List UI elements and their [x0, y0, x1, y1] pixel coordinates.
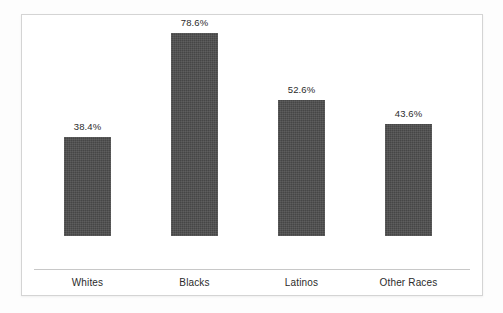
category-label-other-races: Other Races [355, 277, 462, 288]
bar-group-whites: 38.4% Whites [34, 15, 141, 295]
scanned-page-background: 38.4% Whites 78.6% Blacks 52.6% La [0, 0, 503, 313]
bar-column-latinos: 52.6% [248, 84, 355, 236]
bar-group-blacks: 78.6% Blacks [141, 15, 248, 295]
bar-whites[interactable] [64, 137, 111, 236]
bar-group-other-races: 43.6% Other Races [355, 15, 462, 295]
bar-other-races[interactable] [385, 124, 432, 236]
bar-value-label-other-races: 43.6% [395, 108, 422, 119]
bar-latinos[interactable] [278, 100, 325, 236]
plot-area: 38.4% Whites 78.6% Blacks 52.6% La [22, 15, 482, 295]
bar-column-whites: 38.4% [34, 121, 141, 236]
category-label-latinos: Latinos [248, 277, 355, 288]
chart-frame: 38.4% Whites 78.6% Blacks 52.6% La [21, 14, 483, 296]
bar-column-other-races: 43.6% [355, 108, 462, 236]
bar-value-label-whites: 38.4% [74, 121, 101, 132]
bar-blacks[interactable] [171, 33, 218, 236]
bar-group-latinos: 52.6% Latinos [248, 15, 355, 295]
bar-value-label-blacks: 78.6% [181, 17, 208, 28]
bar-column-blacks: 78.6% [141, 17, 248, 236]
category-label-whites: Whites [34, 277, 141, 288]
bar-value-label-latinos: 52.6% [288, 84, 315, 95]
category-label-blacks: Blacks [141, 277, 248, 288]
